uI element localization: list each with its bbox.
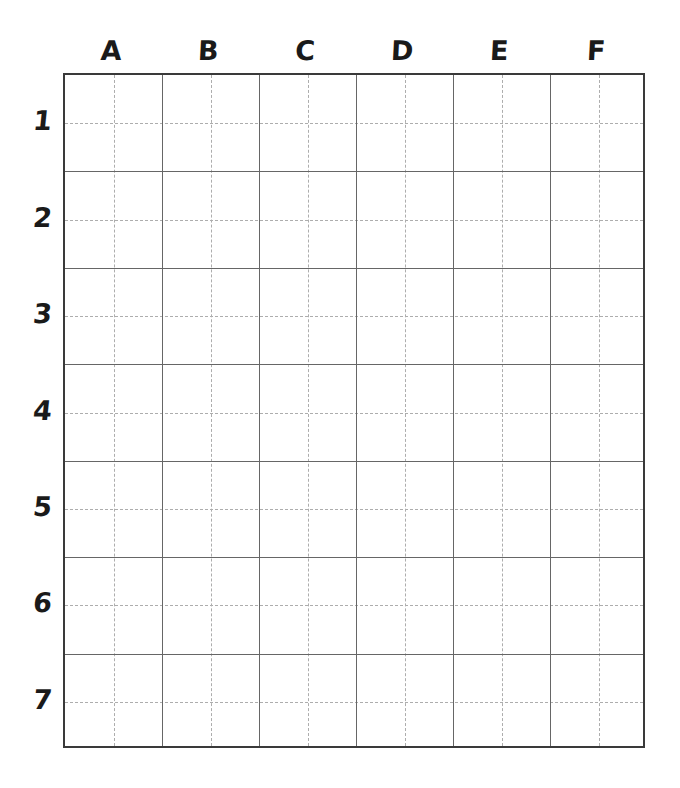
grid-major-vline <box>162 75 163 746</box>
grid-major-vline <box>356 75 357 746</box>
row-label-5: 5 <box>0 490 54 524</box>
column-label-b: B <box>159 34 258 68</box>
row-label-2: 2 <box>0 201 54 235</box>
grid-area[interactable] <box>63 73 645 748</box>
grid-major-hline <box>65 557 643 558</box>
row-label-6: 6 <box>0 586 54 620</box>
grid-major-hline <box>65 171 643 172</box>
grid-minor-hline <box>65 316 643 317</box>
row-label-1: 1 <box>0 104 54 138</box>
row-label-3: 3 <box>0 297 54 331</box>
grid-minor-hline <box>65 220 643 221</box>
grid-minor-vline <box>211 75 212 746</box>
grid-minor-hline <box>65 509 643 510</box>
grid-major-vline <box>259 75 260 746</box>
grid-lines <box>65 75 643 746</box>
grid-major-hline <box>65 461 643 462</box>
grid-major-hline <box>65 654 643 655</box>
grid-major-vline <box>550 75 551 746</box>
grid-minor-hline <box>65 413 643 414</box>
column-label-a: A <box>62 34 161 68</box>
grid-major-hline <box>65 364 643 365</box>
grid-minor-vline <box>114 75 115 746</box>
grid-minor-vline <box>308 75 309 746</box>
column-label-c: C <box>256 34 355 68</box>
grid-minor-hline <box>65 702 643 703</box>
grid-minor-vline <box>599 75 600 746</box>
grid-minor-hline <box>65 605 643 606</box>
row-label-4: 4 <box>0 394 54 428</box>
column-label-e: E <box>450 34 549 68</box>
row-label-7: 7 <box>0 683 54 717</box>
grid-minor-vline <box>502 75 503 746</box>
column-label-d: D <box>353 34 452 68</box>
grid-major-vline <box>453 75 454 746</box>
grid-worksheet-page: ABCDEF 1234567 <box>0 0 680 788</box>
grid-minor-hline <box>65 123 643 124</box>
grid-major-hline <box>65 268 643 269</box>
grid-minor-vline <box>405 75 406 746</box>
column-label-f: F <box>547 34 646 68</box>
